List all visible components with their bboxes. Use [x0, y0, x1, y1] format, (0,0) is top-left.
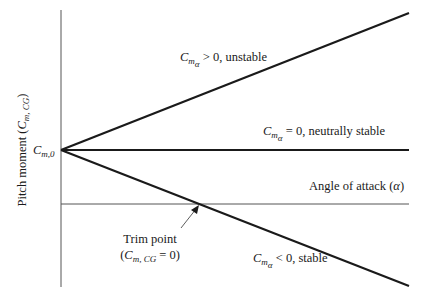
y-axis-label: Pitch moment (Cm, CG) [15, 93, 31, 206]
origin-label: Cm,0 [33, 143, 55, 159]
trim-point-condition: (Cm, CG = 0) [120, 248, 180, 264]
trim-arrow-shaft [181, 209, 196, 228]
stable-label: Cmα < 0, stable [253, 251, 328, 270]
x-axis-label: Angle of attack (α) [309, 179, 404, 193]
unstable-label: Cmα > 0, unstable [180, 50, 267, 69]
stable-line [61, 150, 409, 286]
trim-point-label: Trim point [123, 232, 177, 246]
trim-arrow-head [191, 205, 199, 214]
neutral-label: Cmα = 0, neutrally stable [263, 124, 386, 143]
pitch-stability-diagram: Pitch moment (Cm, CG) Cm,0 Cmα > 0, unst… [0, 0, 422, 300]
